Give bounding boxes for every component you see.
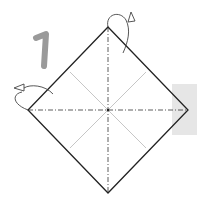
step-number-one	[36, 34, 46, 66]
fold-behind-arrow-left	[24, 86, 53, 94]
fold-behind-arrow-top	[108, 14, 129, 53]
arrowhead-left-icon	[14, 84, 24, 91]
fold-behind-arrow-left-tail	[15, 92, 28, 110]
origami-diagram	[0, 0, 197, 197]
diagram-canvas	[0, 0, 197, 197]
arrowhead-top-icon	[128, 12, 135, 22]
center-point	[107, 109, 110, 112]
